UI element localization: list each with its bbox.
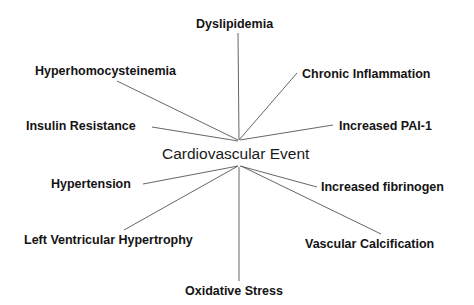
factor-oxidative-stress: Oxidative Stress [185, 285, 283, 298]
factor-insulin-resistance: Insulin Resistance [26, 120, 136, 133]
connector-left-ventricular-hypertrophy [124, 166, 238, 230]
factor-dyslipidemia: Dyslipidemia [196, 18, 273, 31]
connector-hypertension [143, 166, 238, 184]
factor-hypertension: Hypertension [51, 178, 131, 191]
center-node-cardiovascular-event: Cardiovascular Event [162, 146, 309, 162]
factor-increased-pai-1: Increased PAI-1 [339, 120, 432, 133]
factor-chronic-inflammation: Chronic Inflammation [302, 68, 430, 81]
risk-factor-diagram: Dyslipidemia Hyperhomocysteinemia Chroni… [0, 0, 474, 305]
connector-vascular-calcification [241, 166, 381, 234]
connector-increased-pai-1 [240, 125, 333, 140]
factor-left-ventricular-hypertrophy: Left Ventricular Hypertrophy [24, 234, 193, 247]
connector-chronic-inflammation [239, 73, 297, 140]
factor-increased-fibrinogen: Increased fibrinogen [321, 181, 444, 194]
factor-vascular-calcification: Vascular Calcification [305, 238, 434, 251]
connector-dyslipidemia [238, 33, 239, 140]
factor-hyperhomocysteinemia: Hyperhomocysteinemia [35, 65, 176, 78]
